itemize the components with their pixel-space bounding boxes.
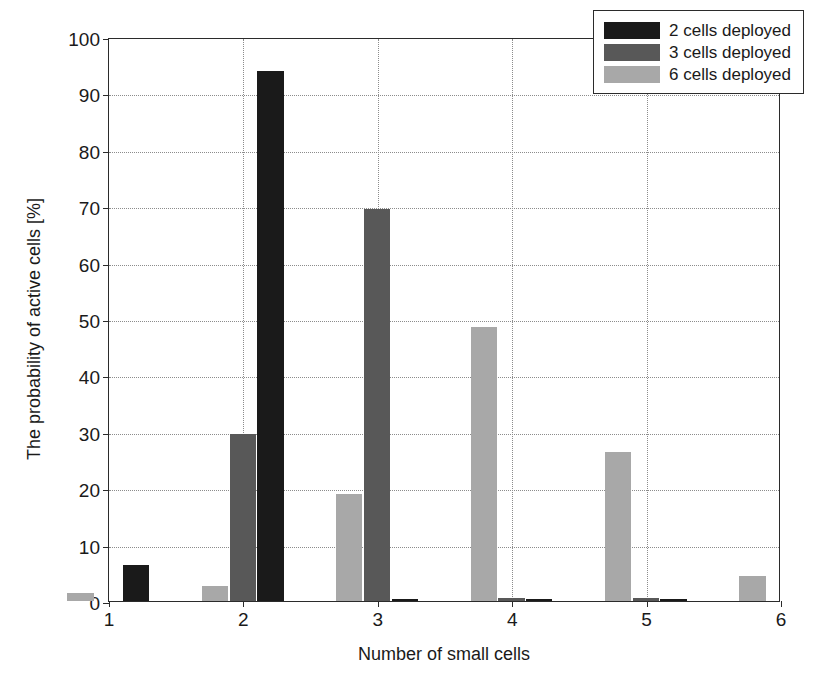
legend-swatch [604, 44, 660, 61]
y-tick-mark [103, 39, 109, 40]
y-tick-mark [103, 321, 109, 322]
y-tick-mark [103, 377, 109, 378]
bar [230, 434, 256, 602]
x-tick-label: 3 [373, 610, 384, 629]
y-tick-mark [103, 208, 109, 209]
x-tick-label: 4 [507, 610, 518, 629]
y-tick-mark [103, 547, 109, 548]
y-tick-label: 70 [79, 199, 100, 218]
bar [336, 494, 362, 601]
bar [202, 586, 228, 601]
gridline-horizontal [109, 321, 779, 322]
legend: 2 cells deployed3 cells deployed6 cells … [593, 10, 804, 94]
bar [123, 565, 149, 601]
gridline-horizontal [109, 95, 779, 96]
y-tick-label: 60 [79, 255, 100, 274]
x-tick-label: 5 [641, 610, 652, 629]
x-tick-mark [378, 601, 379, 607]
y-axis-title: The probability of active cells [%] [25, 47, 43, 611]
legend-swatch [604, 66, 660, 83]
y-tick-label: 40 [79, 368, 100, 387]
legend-label: 3 cells deployed [669, 44, 791, 61]
y-tick-mark [103, 152, 109, 153]
x-tick-label: 1 [104, 610, 115, 629]
gridline-horizontal [109, 208, 779, 209]
y-tick-label: 50 [79, 312, 100, 331]
legend-item: 6 cells deployed [604, 63, 791, 85]
y-tick-label: 30 [79, 424, 100, 443]
gridline-horizontal [109, 547, 779, 548]
legend-item: 3 cells deployed [604, 41, 791, 63]
bar [257, 71, 283, 601]
x-tick-mark [781, 601, 782, 607]
bar [392, 599, 418, 601]
y-tick-label: 80 [79, 142, 100, 161]
bar [739, 576, 765, 601]
gridline-horizontal [109, 265, 779, 266]
x-tick-mark [243, 601, 244, 607]
y-tick-label: 90 [79, 86, 100, 105]
gridline-horizontal [109, 377, 779, 378]
bar [471, 327, 497, 601]
bar [605, 452, 631, 601]
bar [498, 598, 524, 601]
y-tick-label: 100 [68, 30, 100, 49]
bar [364, 209, 390, 601]
y-tick-label: 10 [79, 537, 100, 556]
legend-swatch [604, 22, 660, 39]
y-tick-mark [103, 265, 109, 266]
bar [526, 599, 552, 601]
plot-area: 0102030405060708090100 123456 [108, 38, 780, 602]
bar [633, 598, 659, 601]
bar [660, 599, 686, 601]
x-axis-title: Number of small cells [108, 645, 780, 663]
chart-figure: 0102030405060708090100 123456 Number of … [0, 0, 818, 677]
gridline-horizontal [109, 490, 779, 491]
legend-label: 2 cells deployed [669, 22, 791, 39]
gridline-horizontal [109, 434, 779, 435]
x-tick-mark [109, 601, 110, 607]
x-tick-label: 6 [776, 610, 787, 629]
x-tick-label: 2 [238, 610, 249, 629]
gridline-vertical [647, 39, 648, 601]
y-tick-mark [103, 95, 109, 96]
x-tick-mark [647, 601, 648, 607]
legend-item: 2 cells deployed [604, 19, 791, 41]
legend-label: 6 cells deployed [669, 66, 791, 83]
y-tick-mark [103, 490, 109, 491]
x-tick-mark [512, 601, 513, 607]
y-tick-mark [103, 434, 109, 435]
bar [67, 593, 93, 601]
gridline-vertical [512, 39, 513, 601]
y-tick-label: 20 [79, 481, 100, 500]
gridline-horizontal [109, 152, 779, 153]
